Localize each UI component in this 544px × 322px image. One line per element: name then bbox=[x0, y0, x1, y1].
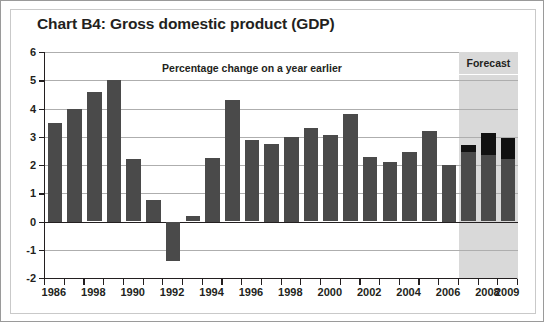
x-axis-tick-label: 1998 bbox=[81, 286, 105, 298]
bar-2001 bbox=[343, 52, 358, 278]
bar-1988 bbox=[87, 52, 102, 278]
y-axis-tick bbox=[39, 109, 45, 110]
bar-body bbox=[264, 144, 279, 222]
x-axis-tick bbox=[143, 279, 144, 285]
bar-2008 bbox=[481, 52, 496, 278]
x-axis-tick bbox=[340, 279, 341, 285]
y-axis-tick-label: 3 bbox=[10, 131, 36, 143]
bar-series bbox=[45, 52, 518, 278]
y-axis-tick bbox=[39, 52, 45, 53]
x-axis-tick bbox=[300, 279, 301, 285]
x-axis-tick-label: 2002 bbox=[357, 286, 381, 298]
bar-body bbox=[205, 158, 220, 222]
bar-body bbox=[461, 145, 476, 221]
x-axis-tick bbox=[281, 279, 282, 285]
y-axis-tick bbox=[39, 137, 45, 138]
bar-2005 bbox=[422, 52, 437, 278]
x-axis-tick-label: 1996 bbox=[239, 286, 263, 298]
bar-body bbox=[402, 152, 417, 221]
bar-body bbox=[422, 131, 437, 221]
bar-1993 bbox=[186, 52, 201, 278]
x-axis-tick bbox=[103, 279, 104, 285]
x-axis-tick bbox=[478, 279, 479, 285]
y-axis-labels: 6543210-1-2 bbox=[10, 52, 36, 278]
bar-body bbox=[107, 80, 122, 221]
bar-body bbox=[48, 123, 63, 222]
y-axis-tick-label: -2 bbox=[10, 272, 36, 284]
x-axis-tick bbox=[517, 279, 518, 285]
bar-body bbox=[323, 135, 338, 221]
bar-body bbox=[304, 128, 319, 221]
bar-cap bbox=[481, 133, 496, 156]
x-axis-tick bbox=[458, 279, 459, 285]
x-axis-tick-label: 1998 bbox=[278, 286, 302, 298]
page-title: Chart B4: Gross domestic product (GDP) bbox=[37, 15, 335, 33]
y-axis-tick-label: -1 bbox=[10, 244, 36, 256]
x-axis-tick bbox=[221, 279, 222, 285]
bar-1994 bbox=[205, 52, 220, 278]
bar-1991 bbox=[146, 52, 161, 278]
bar-body bbox=[166, 222, 181, 262]
x-axis-tick-label: 2009 bbox=[495, 286, 519, 298]
chart-frame: Chart B4: Gross domestic product (GDP) 6… bbox=[0, 0, 544, 322]
bar-2002 bbox=[363, 52, 378, 278]
y-axis-tick bbox=[39, 193, 45, 194]
bar-body bbox=[67, 109, 82, 222]
x-axis-tick-label: 2000 bbox=[318, 286, 342, 298]
bar-body bbox=[126, 159, 141, 221]
bar-1990 bbox=[126, 52, 141, 278]
bar-1987 bbox=[67, 52, 82, 278]
bar-1996 bbox=[245, 52, 260, 278]
bar-1997 bbox=[264, 52, 279, 278]
bar-2009 bbox=[501, 52, 516, 278]
bar-1995 bbox=[225, 52, 240, 278]
y-axis-tick bbox=[39, 250, 45, 251]
x-axis-tick bbox=[202, 279, 203, 285]
bar-cap bbox=[501, 138, 516, 159]
x-axis-tick-label: 1986 bbox=[42, 286, 66, 298]
bar-1992 bbox=[166, 52, 181, 278]
plot-area: Percentage change on a year earlier Fore… bbox=[44, 52, 517, 278]
bar-1989 bbox=[107, 52, 122, 278]
bar-body bbox=[225, 100, 240, 221]
x-axis-tick-label: 1990 bbox=[120, 286, 144, 298]
bar-body bbox=[186, 216, 201, 222]
x-axis-tick bbox=[123, 279, 124, 285]
x-axis-tick bbox=[83, 279, 84, 285]
x-axis-tick bbox=[64, 279, 65, 285]
y-axis-tick-label: 0 bbox=[10, 216, 36, 228]
bar-body bbox=[87, 92, 102, 222]
x-axis-tick bbox=[438, 279, 439, 285]
x-axis-tick bbox=[241, 279, 242, 285]
x-axis-labels: 1986199819901992199419961998200020022004… bbox=[44, 286, 517, 308]
bar-2003 bbox=[383, 52, 398, 278]
bar-1998 bbox=[284, 52, 299, 278]
x-axis-tick bbox=[359, 279, 360, 285]
x-axis-tick-label: 2006 bbox=[436, 286, 460, 298]
bar-body bbox=[245, 140, 260, 222]
x-axis-tick bbox=[418, 279, 419, 285]
x-axis-tick bbox=[399, 279, 400, 285]
x-axis-tick-label: 1992 bbox=[160, 286, 184, 298]
x-axis-tick bbox=[44, 279, 45, 285]
x-axis-tick-label: 2004 bbox=[396, 286, 420, 298]
bar-body bbox=[442, 165, 457, 222]
bar-2000 bbox=[323, 52, 338, 278]
x-axis-tick bbox=[261, 279, 262, 285]
x-axis bbox=[44, 278, 517, 279]
bar-body bbox=[284, 137, 299, 222]
y-axis-tick-label: 1 bbox=[10, 187, 36, 199]
y-axis-tick bbox=[39, 222, 45, 223]
y-axis-tick-label: 2 bbox=[10, 159, 36, 171]
y-axis-tick-label: 6 bbox=[10, 46, 36, 58]
bar-body bbox=[363, 157, 378, 222]
x-axis-tick bbox=[379, 279, 380, 285]
x-axis-tick-label: 1994 bbox=[199, 286, 223, 298]
x-axis-tick bbox=[182, 279, 183, 285]
bar-body bbox=[146, 200, 161, 221]
y-axis-tick-label: 5 bbox=[10, 74, 36, 86]
y-axis-tick bbox=[39, 165, 45, 166]
x-axis-tick bbox=[497, 279, 498, 285]
bar-body bbox=[383, 162, 398, 221]
bar-2007 bbox=[461, 52, 476, 278]
